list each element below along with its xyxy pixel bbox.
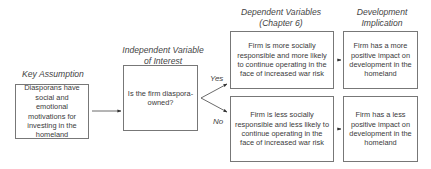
- implication-yes-box: Firm has a more positive impact on devel…: [343, 31, 418, 89]
- arrow-yes-branch: [201, 84, 227, 98]
- implication-no-text: Firm has a less positive impact on devel…: [347, 110, 414, 148]
- dependent-no-text: Firm is less socially responsible and le…: [234, 110, 330, 148]
- dependent-yes-box: Firm is more socially responsible and mo…: [230, 31, 334, 89]
- key-assumption-box: Diasporans have social and emotional mot…: [15, 84, 89, 139]
- dependent-no-box: Firm is less socially responsible and le…: [230, 96, 334, 162]
- key-assumption-text: Diasporans have social and emotional mot…: [19, 83, 85, 139]
- implication-no-box: Firm has a less positive impact on devel…: [343, 96, 418, 162]
- dependent-yes-text: Firm is more socially responsible and mo…: [234, 41, 330, 79]
- arrow-no-branch: [201, 98, 227, 112]
- independent-variable-box: Is the firm diaspora-owned?: [123, 65, 198, 131]
- independent-variable-text: Is the firm diaspora-owned?: [127, 89, 194, 108]
- implication-yes-text: Firm has a more positive impact on devel…: [347, 41, 414, 79]
